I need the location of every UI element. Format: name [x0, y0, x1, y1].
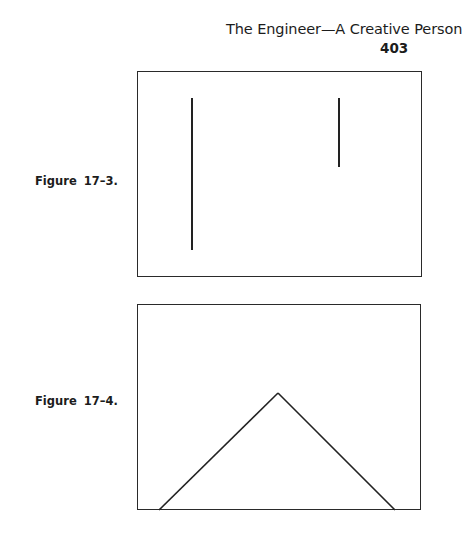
figure-17-3-caption: Figure 17–3.: [35, 174, 118, 188]
right-diagonal-line: [278, 393, 395, 510]
left-diagonal-line: [159, 393, 278, 510]
figure-17-4-drawing: [138, 305, 422, 511]
figure-17-4-caption: Figure 17–4.: [35, 394, 118, 408]
figure-17-3-drawing: [138, 72, 423, 278]
figure-17-4-frame: [137, 304, 421, 510]
page-number: 403: [380, 40, 408, 56]
figure-17-3-frame: [137, 71, 422, 277]
running-head-title: The Engineer—A Creative Person: [226, 21, 462, 37]
